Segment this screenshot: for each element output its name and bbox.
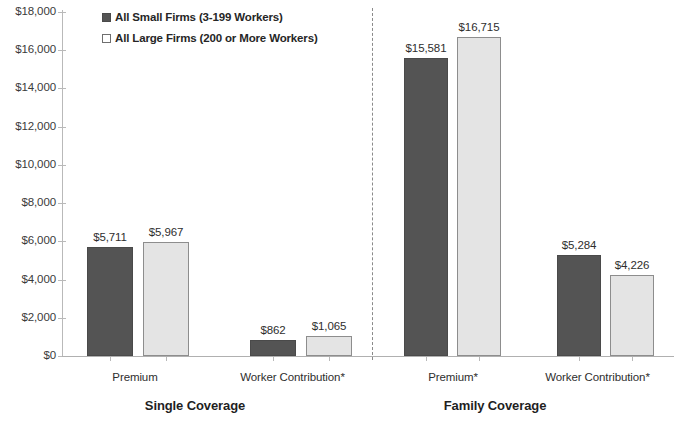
group-divider <box>372 8 373 360</box>
y-axis-label: $6,000 <box>0 234 56 248</box>
bar-family-premium-small <box>404 58 448 356</box>
y-axis-label: $8,000 <box>0 196 56 210</box>
y-axis-tick <box>58 203 66 204</box>
y-axis-tick <box>58 280 66 281</box>
bar-value-label-family-contribution-large: $4,226 <box>597 259 667 271</box>
y-axis-label-text: $16,000 <box>4 43 56 55</box>
y-axis-label: $4,000 <box>0 273 56 287</box>
legend-item-small-firms: All Small Firms (3-199 Workers) <box>102 8 318 26</box>
y-axis-line <box>62 10 63 357</box>
bar-value-label-single-contribution-large: $1,065 <box>294 320 364 332</box>
y-axis-label-text: $2,000 <box>4 311 56 323</box>
bar-single-contribution-small <box>250 340 296 356</box>
bar-chart: $18,000$16,000$14,000$12,000$10,000$8,00… <box>0 0 680 422</box>
y-axis-label-text: $0 <box>4 349 56 361</box>
y-axis-label: $18,000 <box>0 5 56 19</box>
y-axis-label: $10,000 <box>0 158 56 172</box>
legend: All Small Firms (3-199 Workers) All Larg… <box>102 8 318 50</box>
bar-single-premium-large <box>143 242 189 356</box>
y-axis-tick <box>58 12 66 13</box>
category-label-family-contribution: Worker Contribution* <box>515 371 680 383</box>
bar-value-label-single-premium-large: $5,967 <box>131 226 201 238</box>
category-label-single-contribution: Worker Contribution* <box>205 371 380 383</box>
legend-label-large-firms: All Large Firms (200 or More Workers) <box>115 32 318 44</box>
bar-value-label-family-premium-small: $15,581 <box>391 42 461 54</box>
group-label-family-coverage: Family Coverage <box>410 398 580 413</box>
y-axis-tick <box>58 318 66 319</box>
y-axis-label-text: $18,000 <box>4 5 56 17</box>
y-axis-label-text: $4,000 <box>4 273 56 285</box>
y-axis-tick <box>58 165 66 166</box>
legend-swatch-light-icon <box>102 34 111 43</box>
bar-family-contribution-small <box>557 255 601 356</box>
y-axis-label: $14,000 <box>0 81 56 95</box>
bar-single-premium-small <box>87 247 133 356</box>
bar-value-label-family-contribution-small: $5,284 <box>544 239 614 251</box>
y-axis-label: $16,000 <box>0 43 56 57</box>
bar-family-contribution-large <box>610 275 654 356</box>
y-axis-label-text: $8,000 <box>4 196 56 208</box>
group-label-single-coverage: Single Coverage <box>110 398 280 413</box>
bar-value-label-family-premium-large: $16,715 <box>444 21 514 33</box>
y-axis-label-text: $10,000 <box>4 158 56 170</box>
legend-swatch-dark-icon <box>102 13 111 22</box>
y-axis-label: $12,000 <box>0 120 56 134</box>
legend-item-large-firms: All Large Firms (200 or More Workers) <box>102 29 318 47</box>
y-axis-tick <box>58 241 66 242</box>
y-axis-tick <box>58 127 66 128</box>
y-axis-label-text: $14,000 <box>4 81 56 93</box>
category-label-single-premium: Premium <box>50 371 220 383</box>
category-label-family-premium: Premium* <box>378 371 528 383</box>
bar-single-contribution-large <box>306 336 352 356</box>
y-axis-label: $2,000 <box>0 311 56 325</box>
bar-family-premium-large <box>457 37 501 356</box>
y-axis-label-text: $6,000 <box>4 234 56 246</box>
legend-label-small-firms: All Small Firms (3-199 Workers) <box>115 11 283 23</box>
y-axis-label-text: $12,000 <box>4 120 56 132</box>
y-axis-tick <box>58 88 66 89</box>
y-axis-label: $0 <box>0 349 56 363</box>
x-axis-line <box>62 356 674 357</box>
y-axis-tick <box>58 50 66 51</box>
